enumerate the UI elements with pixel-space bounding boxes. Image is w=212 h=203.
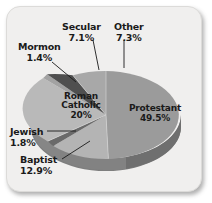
slice-label-roman-catholic-value: 20% <box>55 111 107 120</box>
slice-label-jewish-name: Jewish <box>10 127 43 137</box>
slice-label-other: Other 7.3% <box>114 22 144 42</box>
slice-label-baptist-name: Baptist <box>20 155 57 165</box>
slice-label-jewish: Jewish 1.8% <box>10 127 43 147</box>
slice-label-other-name: Other <box>114 22 144 32</box>
slice-label-baptist: Baptist 12.9% <box>20 155 57 175</box>
slice-label-other-value: 7.3% <box>114 33 144 43</box>
slice-label-secular-name: Secular <box>62 22 101 32</box>
slice-label-protestant: Protestant 49.5% <box>124 104 186 123</box>
slice-label-baptist-value: 12.9% <box>20 166 57 176</box>
leader-line-secular <box>93 40 99 70</box>
slice-label-jewish-value: 1.8% <box>10 138 43 148</box>
slice-label-secular: Secular 7.1% <box>62 22 101 42</box>
pie-chart-figure: Secular 7.1% Other 7.3% Mormon 1.4% Jewi… <box>0 0 212 203</box>
slice-label-secular-value: 7.1% <box>62 33 101 43</box>
slice-label-mormon: Mormon 1.4% <box>18 42 61 62</box>
slice-label-mormon-value: 1.4% <box>18 53 61 63</box>
slice-label-mormon-name: Mormon <box>18 42 61 52</box>
slice-label-roman-catholic: Roman Catholic 20% <box>55 92 107 121</box>
slice-label-protestant-name: Protestant <box>124 104 186 113</box>
slice-label-protestant-value: 49.5% <box>124 114 186 123</box>
slice-label-roman-catholic-name-2: Catholic <box>55 101 107 110</box>
